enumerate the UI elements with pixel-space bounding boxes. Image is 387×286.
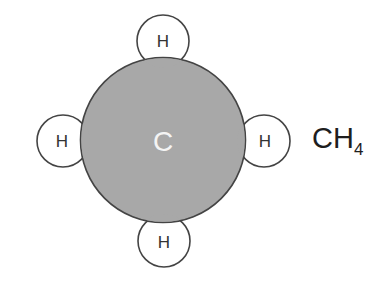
hydrogen-label-left: H bbox=[56, 132, 68, 151]
formula-subscript: 4 bbox=[354, 140, 363, 159]
hydrogen-label-top: H bbox=[157, 32, 169, 51]
formula-main: CH bbox=[312, 122, 354, 154]
chemical-formula: CH4 bbox=[312, 124, 363, 153]
hydrogen-label-bottom: H bbox=[158, 233, 170, 252]
carbon-label: C bbox=[153, 126, 173, 157]
hydrogen-label-right: H bbox=[259, 132, 271, 151]
